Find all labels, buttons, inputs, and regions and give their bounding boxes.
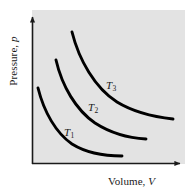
curve-annotation-t3-sub: 3 xyxy=(112,84,116,93)
y-axis-label: Pressure, p xyxy=(3,23,21,99)
y-axis-label-text: Pressure, xyxy=(7,42,19,86)
curve-annotation-t1-sub: 1 xyxy=(70,131,74,140)
isotherm-chart-figure: Pressure, p Volume, V T1 T2 T3 xyxy=(0,0,194,192)
x-axis-label: Volume, V xyxy=(108,171,155,189)
curve-annotation-t1: T1 xyxy=(64,126,74,138)
x-axis-label-symbol: V xyxy=(148,175,155,187)
y-axis-label-symbol: p xyxy=(7,36,19,42)
x-axis-label-text: Volume, xyxy=(108,175,148,187)
curve-annotation-t2-sub: 2 xyxy=(94,106,98,115)
curve-annotation-t2: T2 xyxy=(88,101,98,113)
plot-canvas xyxy=(0,0,194,192)
curve-annotation-t3: T3 xyxy=(106,79,116,91)
